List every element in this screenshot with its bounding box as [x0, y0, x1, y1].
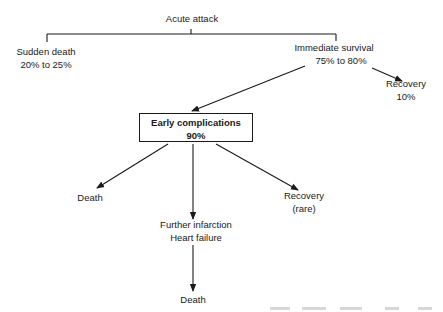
- immediate-survival-label: Immediate survival: [282, 42, 386, 55]
- early-complications-percent: 90%: [140, 130, 252, 143]
- node-early-complications: Early complications 90%: [139, 113, 253, 142]
- recovery-rare-note: (rare): [276, 203, 332, 216]
- root-bracket: [47, 29, 336, 42]
- recovery-percent: 10%: [378, 91, 434, 104]
- death-early-label: Death: [66, 192, 114, 205]
- recovery-label: Recovery: [378, 78, 434, 91]
- further-infarction-label: Further infarction: [146, 219, 246, 232]
- cropped-caption-fragment: [40, 305, 440, 312]
- node-death-early: Death: [66, 192, 114, 205]
- arrow-survival-to-complications: [192, 66, 305, 111]
- early-complications-label: Early complications: [140, 117, 252, 130]
- sudden-death-percent: 20% to 25%: [6, 59, 86, 72]
- recovery-rare-label: Recovery: [276, 190, 332, 203]
- sudden-death-label: Sudden death: [6, 46, 86, 59]
- arrow-complications-to-death: [97, 144, 168, 188]
- acute-attack-label: Acute attack: [152, 13, 232, 26]
- heart-failure-label: Heart failure: [146, 232, 246, 245]
- node-acute-attack: Acute attack: [152, 13, 232, 26]
- node-further-infarction: Further infarction Heart failure: [146, 219, 246, 244]
- node-immediate-survival: Immediate survival 75% to 80%: [282, 42, 386, 67]
- node-sudden-death: Sudden death 20% to 25%: [6, 46, 86, 71]
- arrow-complications-to-recovery-rare: [216, 144, 298, 190]
- node-recovery-rare: Recovery (rare): [276, 190, 332, 215]
- immediate-survival-percent: 75% to 80%: [282, 55, 386, 68]
- node-recovery-10: Recovery 10%: [378, 78, 434, 103]
